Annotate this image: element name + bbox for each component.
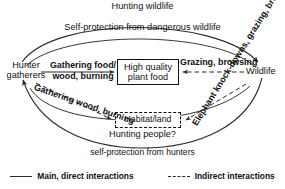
label-hunting-people: Hunting people?	[0, 130, 285, 140]
legend: Main, direct interactions Indirect inter…	[0, 166, 285, 186]
legend-label-main-direct: Main, direct interactions	[37, 171, 133, 181]
legend-label-indirect: Indirect interactions	[195, 171, 275, 181]
diagram-canvas: Hunter gatherers Wildlife High quality p…	[0, 0, 285, 189]
legend-item-main-direct: Main, direct interactions	[10, 171, 133, 181]
legend-item-indirect: Indirect interactions	[168, 171, 275, 181]
legend-dashed-line-icon	[168, 176, 190, 177]
node-hunter-gatherers: Hunter gatherers	[2, 61, 50, 81]
label-self-protection-from-hunters: self-protection from hunters	[0, 148, 285, 157]
node-high-quality-plant-food: High quality plant food	[117, 59, 179, 85]
label-hunting-wildlife: Hunting wildlife	[0, 2, 285, 12]
label-grazing-browsing: Grazing, browsing	[180, 58, 257, 68]
label-gathering-food-wood-burning: Gathering food/ wood, burning	[46, 60, 120, 81]
legend-solid-line-icon	[10, 176, 32, 177]
label-self-protection-from-dangerous-wildlife: Self-protection from dangerous wildlife	[0, 22, 285, 32]
node-wildlife: Wildlife	[246, 67, 276, 77]
